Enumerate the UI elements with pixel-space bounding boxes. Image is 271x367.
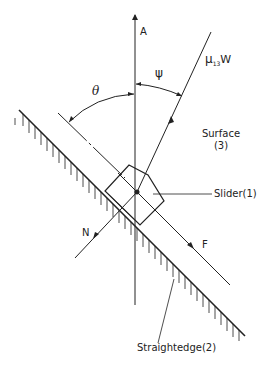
- straightedge-leader: [158, 279, 174, 343]
- slider-label: Slider(1): [214, 189, 257, 199]
- friction-arrow: [168, 116, 174, 124]
- theta-label: θ: [92, 85, 99, 97]
- friction-force-label: μ13W: [205, 53, 231, 67]
- axis-a-label: A: [140, 27, 147, 37]
- surface-label: Surface: [196, 129, 246, 139]
- slider-center-dot: [135, 190, 140, 195]
- friction-w: W: [220, 53, 231, 66]
- normal-label: N: [82, 228, 89, 238]
- surface-number: (3): [196, 141, 246, 151]
- psi-arc: [136, 84, 182, 96]
- straightedge-label: Straightedge(2): [137, 343, 216, 353]
- theta-reference-line: [58, 113, 125, 178]
- psi-label: ψ: [155, 67, 163, 79]
- friction-line: [137, 32, 211, 192]
- normal-line: [75, 192, 137, 258]
- force-diagram: A μ13W ψ θ Surface (3) Slider(1) N F Str…: [0, 0, 271, 367]
- force-f-label: F: [202, 240, 208, 250]
- theta-arc: [69, 94, 134, 122]
- mu-symbol: μ: [205, 52, 213, 66]
